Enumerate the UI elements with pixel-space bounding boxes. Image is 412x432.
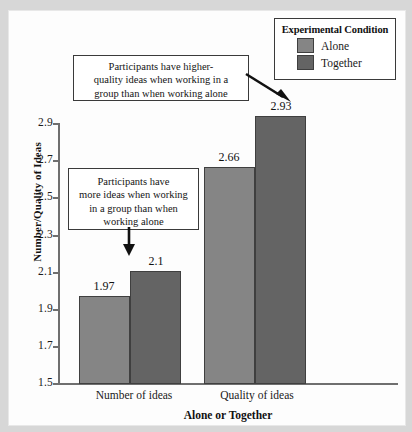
y-tick-2-9 — [53, 123, 59, 125]
y-tick-label-1-5: 1.5 — [13, 376, 53, 388]
bar-quality-of-ideas-alone[interactable] — [204, 167, 255, 384]
y-axis-line — [58, 123, 60, 384]
y-tick-2-5 — [53, 197, 59, 199]
y-axis-title: Number/Quality of Ideas — [31, 122, 43, 282]
bar-number-of-ideas-together[interactable] — [130, 271, 181, 384]
bar-value-1-97: 1.97 — [71, 279, 137, 294]
legend: Experimental Condition Alone Together — [274, 18, 396, 80]
annotation-quality-line2: quality ideas when working in a — [79, 73, 243, 86]
x-axis-title: Alone or Together — [58, 409, 398, 421]
legend-item-alone[interactable]: Alone — [297, 38, 389, 53]
bar-value-2-66: 2.66 — [196, 150, 262, 165]
bar-quality-of-ideas-together[interactable] — [255, 116, 306, 384]
y-tick-1-5 — [53, 383, 59, 385]
y-tick-2-7 — [53, 160, 59, 162]
annotation-number-line2: more ideas when working — [74, 188, 193, 201]
annotation-number-line1: Participants have — [74, 175, 193, 188]
bar-number-of-ideas-alone[interactable] — [79, 296, 130, 384]
annotation-number-callout: Participants have more ideas when workin… — [68, 168, 199, 230]
y-tick-label-1-7: 1.7 — [13, 339, 53, 351]
page-background: 2.9 2.7 2.5 2.3 2.1 1.9 1.7 1.5 Number/Q… — [0, 0, 412, 432]
y-tick-label-1-9: 1.9 — [13, 302, 53, 314]
legend-item-together[interactable]: Together — [297, 55, 389, 70]
x-category-number-of-ideas: Number of ideas — [79, 389, 189, 401]
legend-title: Experimental Condition — [281, 24, 389, 35]
legend-swatch-together-icon — [297, 55, 314, 70]
legend-label-together: Together — [321, 57, 362, 69]
bar-chart: 2.9 2.7 2.5 2.3 2.1 1.9 1.7 1.5 Number/Q… — [9, 11, 405, 425]
y-tick-2-3 — [53, 235, 59, 237]
legend-label-alone: Alone — [321, 40, 349, 52]
y-tick-1-9 — [53, 309, 59, 311]
annotation-quality-line3: group than when working alone — [79, 87, 243, 100]
y-tick-2-1 — [53, 272, 59, 274]
figure-sheet: 2.9 2.7 2.5 2.3 2.1 1.9 1.7 1.5 Number/Q… — [9, 11, 405, 425]
x-category-quality-of-ideas: Quality of ideas — [202, 389, 312, 401]
annotation-number-arrow-icon — [119, 227, 139, 257]
y-tick-1-7 — [53, 346, 59, 348]
legend-swatch-alone-icon — [297, 38, 314, 53]
annotation-quality-line1: Participants have higher- — [79, 60, 243, 73]
annotation-number-line3: in a group than when — [74, 202, 193, 215]
annotation-quality-callout: Participants have higher- quality ideas … — [73, 55, 249, 101]
